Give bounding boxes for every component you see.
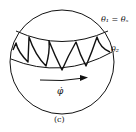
label-theta1: θ₁ = θₛ: [101, 16, 128, 24]
label-theta2: θ₂: [111, 46, 119, 54]
label-phi-dot: φ̇: [57, 87, 63, 96]
arrow-head-icon: [80, 75, 88, 81]
precession-arrow: [40, 78, 84, 81]
sphere-outline: [10, 10, 114, 114]
figure-caption: (c): [54, 116, 65, 124]
